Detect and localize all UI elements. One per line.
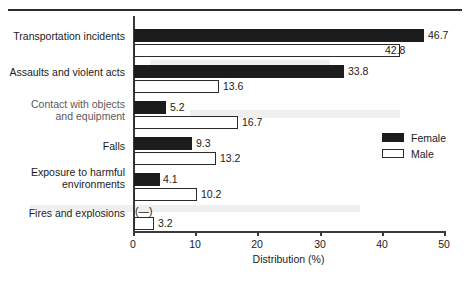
bar-value-male-assaults-and-violent-acts: 13.6 (223, 80, 243, 92)
category-label-transportation-incidents: Transportation incidents (0, 31, 125, 43)
bar-value-female-contact-with-objects-and-equipment: 5.2 (170, 101, 185, 113)
category-label-assaults-and-violent-acts: Assaults and violent acts (0, 67, 125, 79)
bar-male-fires-and-explosions (134, 217, 154, 230)
bar-value-female-transportation-incidents: 46.7 (428, 29, 448, 41)
legend-swatch-male-icon (382, 149, 404, 158)
x-tick-label-30: 30 (314, 238, 326, 250)
bar-value-male-transportation-incidents: 42.8 (385, 44, 405, 56)
bar-male-exposure-to-harmful-environments (134, 188, 197, 201)
x-tick-20 (257, 231, 259, 236)
bar-female-assaults-and-violent-acts (134, 65, 344, 78)
legend-item-female: Female (382, 131, 446, 144)
category-label-contact-with-objects-and-equipment: Contact with objects and equipment (0, 99, 125, 122)
bar-female-falls (134, 137, 192, 150)
bar-value-male-exposure-to-harmful-environments: 10.2 (201, 188, 221, 200)
plot-area: 0 10 20 30 40 50 46.7 42.8 33.8 13.6 5.2… (133, 16, 444, 231)
legend-label-male: Male (411, 148, 434, 160)
x-axis-line (133, 231, 444, 233)
x-tick-label-10: 10 (189, 238, 201, 250)
x-tick-10 (195, 231, 197, 236)
bar-value-female-fires-and-explosions: (—) (135, 205, 153, 217)
bar-male-falls (134, 152, 216, 165)
x-tick-40 (382, 231, 384, 236)
bar-female-contact-with-objects-and-equipment (134, 101, 166, 114)
category-label-exposure-to-harmful-environments: Exposure to harmful environments (0, 167, 125, 190)
bar-male-contact-with-objects-and-equipment (134, 116, 238, 129)
x-tick-label-0: 0 (130, 238, 136, 250)
header-divider (8, 9, 462, 11)
bar-value-female-falls: 9.3 (196, 137, 211, 149)
x-tick-0 (133, 231, 135, 236)
bar-value-male-contact-with-objects-and-equipment: 16.7 (242, 116, 262, 128)
bar-female-transportation-incidents (134, 29, 424, 42)
chart-figure: Transportation incidents Assaults and vi… (0, 0, 469, 283)
bar-value-female-assaults-and-violent-acts: 33.8 (348, 65, 368, 77)
x-tick-50 (444, 231, 446, 236)
bar-value-male-fires-and-explosions: 3.2 (158, 217, 173, 229)
bar-female-exposure-to-harmful-environments (134, 173, 160, 186)
category-label-falls: Falls (0, 141, 125, 153)
bar-value-male-falls: 13.2 (220, 152, 240, 164)
bar-male-transportation-incidents (134, 44, 400, 57)
legend-swatch-female-icon (382, 133, 404, 142)
bar-value-female-exposure-to-harmful-environments: 4.1 (163, 173, 178, 185)
x-tick-30 (320, 231, 322, 236)
chart-legend: Female Male (382, 131, 446, 163)
x-tick-label-50: 50 (438, 238, 450, 250)
legend-item-male: Male (382, 147, 446, 160)
x-axis-title: Distribution (%) (133, 253, 444, 265)
x-tick-label-40: 40 (376, 238, 388, 250)
x-tick-label-20: 20 (251, 238, 263, 250)
legend-label-female: Female (411, 132, 446, 144)
bar-male-assaults-and-violent-acts (134, 80, 219, 93)
category-label-fires-and-explosions: Fires and explosions (0, 208, 125, 220)
